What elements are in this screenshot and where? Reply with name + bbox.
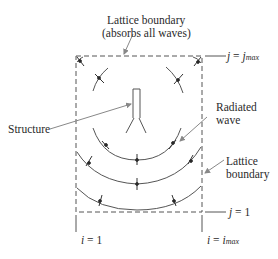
top-boundary-label-line2: (absorbs all waves)	[102, 27, 191, 40]
radiated-wave-arc-2	[77, 147, 201, 184]
structure-arrow	[50, 104, 131, 129]
radiated-wave-arc-3	[77, 186, 201, 210]
i-one-label: i = 1	[81, 234, 102, 247]
corner-wavefront	[77, 57, 201, 63]
top-boundary-label-line1: Lattice boundary	[107, 14, 185, 27]
right-boundary-arrow	[205, 160, 224, 173]
radiated-wave-arrow	[180, 117, 207, 141]
radiated-wave-label-line2: wave	[216, 114, 240, 127]
structure-label: Structure	[8, 123, 50, 136]
right-boundary-label-line1: Lattice	[226, 155, 258, 168]
j-one-label: j = 1	[229, 206, 250, 219]
right-boundary-label-line2: boundary	[226, 168, 269, 181]
radiated-wave-label-line1: Radiated	[216, 101, 257, 114]
structure-shape	[126, 89, 146, 133]
i-max-label: i = imax	[207, 234, 239, 248]
j-max-label: j = jmax	[227, 50, 259, 64]
